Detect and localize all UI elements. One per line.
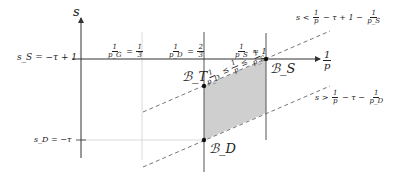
upper-constraint-label: s < 1p − τ + 1 − 1p_S — [296, 10, 382, 25]
pD-label: 1p_D = 23 — [167, 44, 205, 59]
point-BD — [202, 138, 206, 142]
sD-label: s_D = −τ — [34, 136, 71, 144]
sS-label: s_S = −τ + 1 — [17, 53, 77, 62]
y-axis-label: s — [73, 5, 80, 18]
x-axis-label: 1p — [322, 50, 332, 71]
lower-constraint-label: s > 1p − τ − 1p_D — [315, 90, 385, 105]
pG-label: 1p_G = 13 — [106, 44, 144, 59]
BS-label: ℬ_S — [270, 62, 295, 75]
BD-label: ℬ_D — [209, 142, 236, 155]
